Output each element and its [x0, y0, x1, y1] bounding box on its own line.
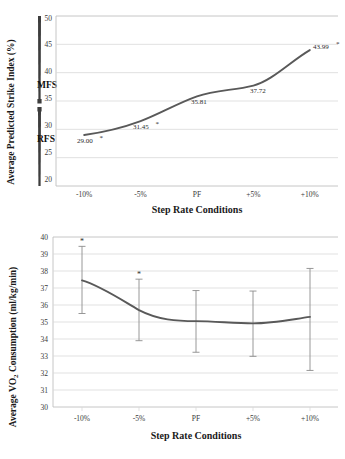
vo2-chart: Average VO2 Consumption (ml/kg/min) 40 3…: [0, 229, 345, 459]
bottom-xtick-minus10: -10%: [74, 414, 90, 423]
bottom-y-axis-label: Average VO2 Consumption (ml/kg/min): [8, 267, 20, 428]
bottom-ytick-36: 36: [41, 301, 49, 310]
bottom-ytick-38: 38: [41, 267, 49, 276]
top-xtick-plus10: +10%: [301, 190, 319, 199]
bottom-y-axis-label-pre: Average VO: [8, 378, 18, 427]
top-xtick-minus10: -10%: [76, 190, 92, 199]
bottom-ytick-39: 39: [41, 250, 49, 259]
top-datalabel-1-star: *: [100, 134, 104, 142]
mfs-region-arrow-head-icon: [37, 99, 41, 104]
bottom-x-axis-label: Step Rate Conditions: [151, 430, 242, 441]
rfs-region-arrow-icon: [38, 109, 41, 186]
strike-index-chart-panel: Average Predicted Strike Index (%) 50 45…: [0, 0, 345, 228]
bottom-xtick-minus5: -5%: [133, 414, 146, 423]
two-panel-figure: Average Predicted Strike Index (%) 50 45…: [0, 0, 345, 459]
bottom-y-axis-label-post: Consumption (ml/kg/min): [8, 267, 19, 375]
bottom-star-minus5: *: [137, 270, 141, 279]
bottom-ytick-30: 30: [41, 403, 49, 412]
bottom-ytick-31: 31: [41, 386, 49, 395]
bottom-ytick-33: 33: [41, 352, 49, 361]
bottom-xtick-pf: PF: [192, 414, 200, 423]
top-xtick-minus5: -5%: [134, 190, 147, 199]
bottom-ytick-34: 34: [41, 335, 49, 344]
bottom-y-axis-label-group: Average VO2 Consumption (ml/kg/min): [8, 267, 20, 428]
top-datalabel-5: 43.99: [313, 43, 329, 51]
top-datalabel-5-star: *: [336, 40, 340, 48]
bottom-ytick-37: 37: [41, 284, 49, 293]
bottom-ytick-40: 40: [41, 233, 49, 242]
top-ytick-25: 25: [45, 148, 53, 157]
top-data-line: [84, 50, 310, 135]
top-y-axis-label: Average Predicted Strike Index (%): [6, 39, 17, 184]
vo2-chart-panel: Average VO2 Consumption (ml/kg/min) 40 3…: [0, 229, 345, 459]
top-datalabel-2: 31.45: [133, 123, 149, 131]
strike-index-chart: Average Predicted Strike Index (%) 50 45…: [0, 0, 345, 228]
top-ytick-40: 40: [45, 67, 53, 76]
top-datalabel-2-star: *: [156, 120, 160, 128]
top-xtick-pf: PF: [193, 190, 201, 199]
top-ytick-35: 35: [45, 94, 53, 103]
mfs-region-label: MFS: [37, 80, 57, 90]
top-x-axis-label: Step Rate Conditions: [152, 204, 243, 215]
top-xtick-plus5: +5%: [246, 190, 260, 199]
top-datalabel-3: 35.81: [191, 98, 207, 106]
top-ytick-20: 20: [45, 175, 53, 184]
bottom-xtick-plus10: +10%: [301, 414, 319, 423]
bottom-ytick-32: 32: [41, 369, 49, 378]
error-bar-plus10: [307, 268, 314, 370]
bottom-ytick-35: 35: [41, 318, 49, 327]
top-datalabel-4: 37.72: [250, 87, 266, 95]
top-datalabel-1: 29.00: [77, 137, 93, 145]
rfs-region-label: RFS: [37, 134, 55, 144]
top-ytick-30: 30: [45, 121, 53, 130]
bottom-star-minus10: *: [80, 237, 84, 246]
top-ytick-45: 45: [45, 40, 53, 49]
top-ytick-50: 50: [45, 14, 53, 23]
bottom-xtick-plus5: +5%: [246, 414, 260, 423]
